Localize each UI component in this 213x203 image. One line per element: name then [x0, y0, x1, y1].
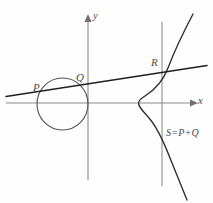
point-label-q: Q	[76, 72, 84, 83]
point-label-p: P	[33, 82, 40, 93]
point-label-r: R	[151, 57, 158, 68]
x-axis-arrow-icon	[190, 99, 198, 106]
elliptic-curve-figure: P Q R x y S=P+Q	[0, 0, 213, 203]
diagram-canvas	[0, 0, 213, 203]
curve-oval-branch	[37, 78, 88, 130]
curve-unbounded-branch	[138, 14, 193, 200]
sum-equation-label: S=P+Q	[166, 128, 199, 138]
y-axis-label: y	[93, 11, 98, 22]
y-axis-arrow-icon	[84, 14, 91, 22]
x-axis-label: x	[198, 96, 203, 107]
